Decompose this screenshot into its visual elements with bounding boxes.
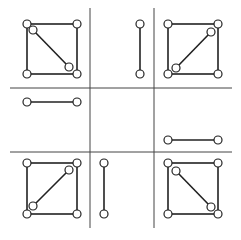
cell-top-middle xyxy=(136,20,144,78)
node-circle xyxy=(214,20,222,28)
node-circle xyxy=(73,210,81,218)
diagram-canvas xyxy=(0,0,241,240)
node-circle xyxy=(164,20,172,28)
node-circle xyxy=(164,70,172,78)
diagonal-edge xyxy=(33,30,69,67)
node-circle xyxy=(23,159,31,167)
cell-top-left xyxy=(23,20,81,78)
node-circle xyxy=(23,70,31,78)
node-circle xyxy=(207,28,215,36)
node-circle xyxy=(65,166,73,174)
node-circle xyxy=(73,159,81,167)
node-circle xyxy=(164,210,172,218)
node-circle xyxy=(164,159,172,167)
node-circle xyxy=(29,26,37,34)
node-circle xyxy=(164,136,172,144)
cell-middle-left xyxy=(23,98,81,106)
cell-bottom-left xyxy=(23,159,81,218)
cell-top-right xyxy=(164,20,222,78)
node-circle xyxy=(100,159,108,167)
cell-shapes xyxy=(23,20,222,218)
node-circle xyxy=(73,98,81,106)
node-circle xyxy=(65,63,73,71)
cell-middle-right xyxy=(164,136,222,144)
node-circle xyxy=(23,210,31,218)
node-circle xyxy=(214,159,222,167)
node-circle xyxy=(29,202,37,210)
diagonal-edge xyxy=(176,171,211,207)
node-circle xyxy=(73,20,81,28)
node-circle xyxy=(172,167,180,175)
node-circle xyxy=(73,70,81,78)
diagonal-edge xyxy=(33,170,69,206)
node-circle xyxy=(214,70,222,78)
node-circle xyxy=(207,203,215,211)
node-circle xyxy=(136,70,144,78)
node-circle xyxy=(100,210,108,218)
cell-bottom-middle xyxy=(100,159,108,218)
node-circle xyxy=(136,20,144,28)
cell-bottom-right xyxy=(164,159,222,218)
node-circle xyxy=(214,210,222,218)
diagonal-edge xyxy=(176,32,211,68)
node-circle xyxy=(172,64,180,72)
node-circle xyxy=(23,98,31,106)
node-circle xyxy=(214,136,222,144)
